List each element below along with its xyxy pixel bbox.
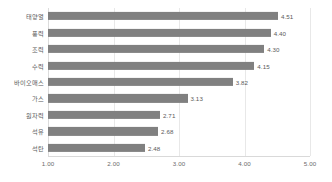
category-label: 조력 bbox=[32, 45, 44, 54]
bar-value-label: 4.15 bbox=[257, 62, 269, 69]
x-tick-label: 2.00 bbox=[107, 160, 119, 167]
bar bbox=[48, 111, 160, 119]
x-tick-label: 3.00 bbox=[173, 160, 185, 167]
x-tick-label: 5.00 bbox=[304, 160, 316, 167]
bar-value-label: 4.40 bbox=[274, 29, 286, 36]
bar bbox=[48, 78, 233, 86]
bar bbox=[48, 144, 145, 152]
bar bbox=[48, 45, 264, 53]
bar-value-label: 3.13 bbox=[191, 95, 203, 102]
category-label: 석유 bbox=[32, 127, 44, 136]
bar bbox=[48, 61, 254, 69]
bar bbox=[48, 12, 278, 20]
category-label: 수력 bbox=[32, 61, 44, 70]
bar-value-label: 3.82 bbox=[236, 78, 248, 85]
bar-row: 조력4.30 bbox=[48, 41, 310, 57]
category-label: 석탄 bbox=[32, 143, 44, 152]
x-tick-label: 1.00 bbox=[42, 160, 54, 167]
x-axis-tick-labels: 1.002.003.004.005.00 bbox=[48, 160, 310, 174]
bar-row: 풍력4.40 bbox=[48, 24, 310, 40]
bar-value-label: 2.48 bbox=[148, 144, 160, 151]
bar-row: 가스3.13 bbox=[48, 90, 310, 106]
bar-value-label: 2.71 bbox=[163, 111, 175, 118]
category-label: 태양열 bbox=[26, 12, 44, 21]
plot-area: 태양열4.51풍력4.40조력4.30수력4.15바이오매스3.82가스3.13… bbox=[48, 8, 310, 156]
bar-row: 태양열4.51 bbox=[48, 8, 310, 24]
gridline bbox=[310, 8, 311, 156]
bar-row: 석탄2.48 bbox=[48, 140, 310, 156]
bar-row: 원자력2.71 bbox=[48, 107, 310, 123]
bar-series: 태양열4.51풍력4.40조력4.30수력4.15바이오매스3.82가스3.13… bbox=[48, 8, 310, 156]
bar-row: 수력4.15 bbox=[48, 57, 310, 73]
x-axis-line bbox=[48, 156, 310, 157]
bar-row: 석유2.68 bbox=[48, 123, 310, 139]
bar-chart: 태양열4.51풍력4.40조력4.30수력4.15바이오매스3.82가스3.13… bbox=[0, 0, 332, 182]
bar bbox=[48, 29, 271, 37]
bar-value-label: 4.30 bbox=[267, 46, 279, 53]
category-label: 가스 bbox=[32, 94, 44, 103]
category-label: 원자력 bbox=[26, 110, 44, 119]
bar bbox=[48, 94, 188, 102]
bar-row: 바이오매스3.82 bbox=[48, 74, 310, 90]
bar bbox=[48, 127, 158, 135]
x-tick-label: 4.00 bbox=[238, 160, 250, 167]
bar-value-label: 2.68 bbox=[161, 128, 173, 135]
category-label: 바이오매스 bbox=[14, 77, 45, 86]
bar-value-label: 4.51 bbox=[281, 13, 293, 20]
category-label: 풍력 bbox=[32, 28, 44, 37]
